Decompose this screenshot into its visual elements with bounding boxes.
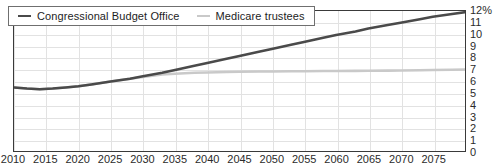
- y-tick-label: 12%: [470, 5, 492, 16]
- x-tick-label: 2020: [65, 154, 89, 165]
- legend-item-cbo[interactable]: Congressional Budget Office: [18, 10, 180, 22]
- x-tick-label: 2060: [324, 154, 348, 165]
- legend-label-medicare-trustees: Medicare trustees: [216, 10, 305, 22]
- y-tick-label: 5: [470, 88, 476, 99]
- y-tick-label: 6: [470, 76, 476, 87]
- plot-area: [13, 10, 466, 152]
- medicare-spending-projection-chart: Congressional Budget Office Medicare tru…: [0, 0, 494, 168]
- x-tick-label: 2030: [130, 154, 154, 165]
- y-tick-label: 4: [470, 100, 476, 111]
- x-tick-label: 2010: [1, 154, 25, 165]
- y-tick-label: 11: [470, 17, 481, 28]
- legend-item-medicare-trustees[interactable]: Medicare trustees: [197, 10, 305, 22]
- x-tick-label: 2065: [357, 154, 381, 165]
- y-tick-label: 1: [470, 135, 476, 146]
- legend-swatch-cbo: [18, 15, 31, 18]
- plot-inner: [14, 11, 465, 151]
- legend-swatch-medicare-trustees: [197, 15, 210, 18]
- legend-label-cbo: Congressional Budget Office: [37, 10, 180, 22]
- x-tick-label: 2015: [33, 154, 57, 165]
- chart-legend: Congressional Budget Office Medicare tru…: [8, 6, 315, 26]
- x-tick-label: 2055: [292, 154, 316, 165]
- x-tick-label: 2040: [195, 154, 219, 165]
- x-tick-label: 2035: [163, 154, 187, 165]
- y-tick-label: 7: [470, 64, 476, 75]
- x-tick-label: 2075: [421, 154, 445, 165]
- y-tick-label: 2: [470, 123, 476, 134]
- x-tick-label: 2050: [260, 154, 284, 165]
- y-tick-label: 9: [470, 41, 476, 52]
- y-tick-label: 3: [470, 112, 476, 123]
- x-axis-labels: 2010201520202025203020352040204520502055…: [0, 154, 494, 168]
- x-tick-label: 2025: [98, 154, 122, 165]
- x-tick-label: 2045: [227, 154, 251, 165]
- series-lines: [14, 11, 465, 151]
- y-tick-label: 8: [470, 52, 476, 63]
- y-tick-label: 10: [470, 29, 482, 40]
- x-tick-label: 2070: [389, 154, 413, 165]
- y-axis-labels: 12%11109876543210: [470, 0, 494, 168]
